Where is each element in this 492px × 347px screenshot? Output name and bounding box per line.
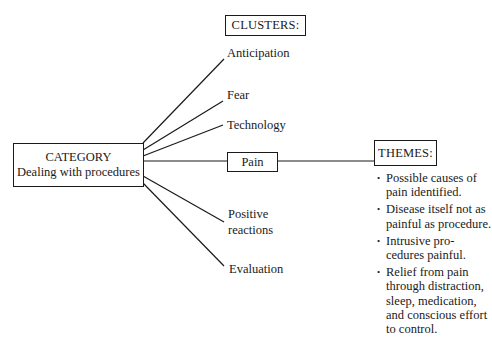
category-subtitle: Dealing with procedures <box>17 165 140 180</box>
themes-header: THEMES: <box>378 146 433 161</box>
diagram-canvas: CLUSTERS: CATEGORY Dealing with procedur… <box>0 0 492 347</box>
themes-list: • Possible causes of pain identified. • … <box>376 171 492 339</box>
bullet-icon: • <box>377 234 380 248</box>
theme-item: • Intrusive pro-cedures painful. <box>376 234 492 262</box>
cluster-evaluation: Evaluation <box>229 261 283 277</box>
category-title: CATEGORY <box>46 150 112 165</box>
connector-fear <box>143 101 223 150</box>
connector-positive <box>143 176 224 222</box>
bullet-icon: • <box>377 171 380 185</box>
cluster-pain: Pain <box>241 155 263 170</box>
theme-text: Disease itself not as painful as procedu… <box>386 202 491 230</box>
category-box: CATEGORY Dealing with procedures <box>13 143 144 187</box>
theme-text: Relief from pain through distraction, sl… <box>386 265 487 336</box>
connector-evaluation <box>143 183 224 266</box>
theme-text: Intrusive pro-cedures painful. <box>386 234 466 262</box>
theme-item: • Disease itself not as painful as proce… <box>376 202 492 230</box>
cluster-positive-reactions: Positive reactions <box>228 206 288 238</box>
clusters-header: CLUSTERS: <box>232 18 300 33</box>
theme-text: Possible causes of pain identified. <box>386 171 477 199</box>
theme-item: • Possible causes of pain identified. <box>376 171 492 199</box>
bullet-icon: • <box>377 265 380 279</box>
cluster-anticipation: Anticipation <box>227 45 290 61</box>
theme-item: • Relief from pain through distraction, … <box>376 265 492 336</box>
cluster-fear: Fear <box>227 87 249 103</box>
connector-technology <box>143 125 223 156</box>
cluster-pain-box: Pain <box>227 152 278 172</box>
cluster-technology: Technology <box>227 117 286 133</box>
bullet-icon: • <box>377 202 380 216</box>
connector-anticipation <box>143 59 224 143</box>
themes-header-box: THEMES: <box>374 140 437 166</box>
clusters-header-box: CLUSTERS: <box>225 15 306 36</box>
